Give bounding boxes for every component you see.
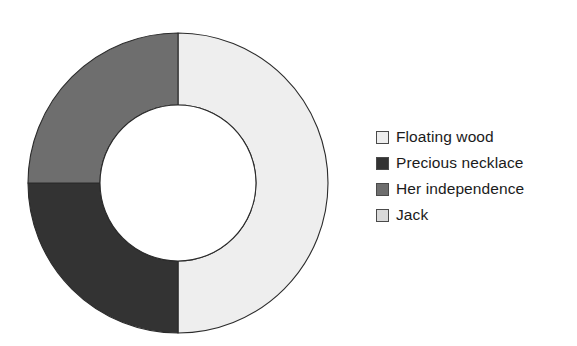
legend-swatch-icon xyxy=(376,209,389,222)
donut-svg xyxy=(27,32,329,334)
legend-item-precious-necklace[interactable]: Precious necklace xyxy=(376,150,566,176)
legend: Floating wood Precious necklace Her inde… xyxy=(376,124,566,228)
legend-label: Precious necklace xyxy=(396,155,524,171)
donut-plot-area xyxy=(27,32,329,334)
legend-item-her-independence[interactable]: Her independence xyxy=(376,176,566,202)
legend-label: Floating wood xyxy=(396,129,494,145)
legend-swatch-icon xyxy=(376,131,389,144)
legend-label: Her independence xyxy=(396,181,524,197)
legend-swatch-icon xyxy=(376,157,389,170)
donut-chart: Floating wood Precious necklace Her inde… xyxy=(0,0,577,346)
legend-item-jack[interactable]: Jack xyxy=(376,202,566,228)
legend-swatch-icon xyxy=(376,183,389,196)
legend-item-floating-wood[interactable]: Floating wood xyxy=(376,124,566,150)
donut-hole xyxy=(100,105,256,261)
legend-label: Jack xyxy=(396,207,428,223)
